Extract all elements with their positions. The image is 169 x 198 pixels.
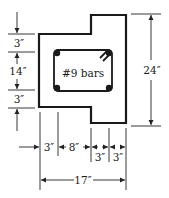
- left-dimension-group: 3″ 14″ 3″: [8, 12, 35, 131]
- rebar-bottom-right: [106, 85, 112, 91]
- rebar-top-left: [54, 50, 60, 56]
- bar-label: #9 bars: [62, 67, 104, 79]
- dim-right-inner: 3″: [95, 151, 106, 163]
- dim-left-cover: 3″: [44, 141, 55, 153]
- rebar-bottom-left: [54, 85, 60, 91]
- beam-section-diagram: #9 bars 3″ 14″ 3″ 24″ 3″: [0, 0, 169, 198]
- dim-stirrup-width: 8″: [69, 141, 80, 153]
- dim-bottom-cover: 3″: [14, 93, 25, 105]
- dim-total-height: 24″: [143, 64, 160, 76]
- dim-overall-width: 17″: [74, 174, 91, 186]
- right-dimension-group: 24″: [131, 14, 161, 126]
- rebar-top-right: [106, 50, 112, 56]
- dim-right-cover: 3″: [113, 151, 124, 163]
- dim-stirrup-height: 14″: [9, 65, 26, 77]
- dim-top-cover: 3″: [14, 37, 25, 49]
